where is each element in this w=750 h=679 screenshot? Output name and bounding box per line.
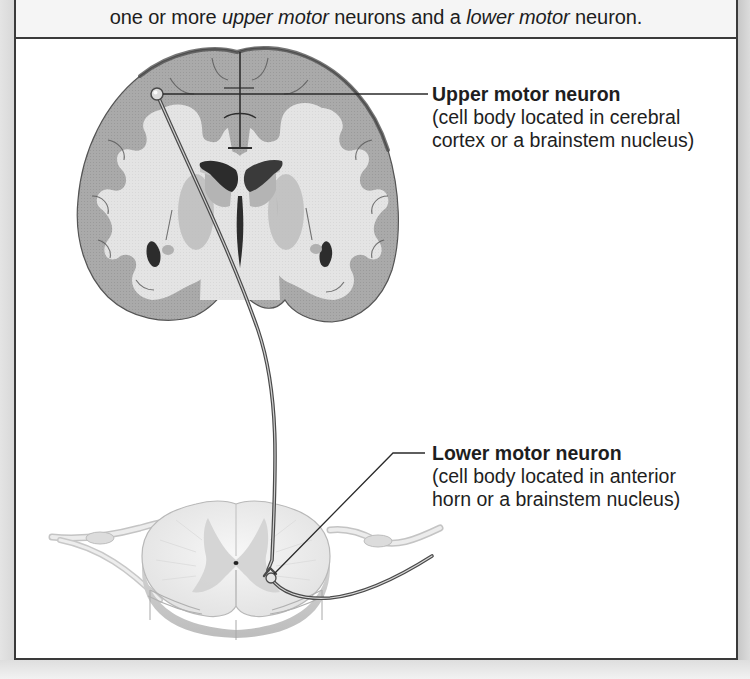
label-upper-desc-1: (cell body located in cerebral xyxy=(432,106,694,129)
lower-motor-cell-body xyxy=(266,573,276,583)
label-upper-desc-2: cortex or a brainstem nucleus) xyxy=(432,129,694,152)
label-lower-title: Lower motor neuron xyxy=(432,442,680,465)
label-upper-title: Upper motor neuron xyxy=(432,83,694,106)
label-upper-motor-neuron: Upper motor neuron (cell body located in… xyxy=(432,83,694,152)
upper-motor-cell-body xyxy=(151,88,163,100)
central-canal xyxy=(234,561,239,565)
label-lower-desc-2: horn or a brainstem nucleus) xyxy=(432,488,680,511)
spinal-cord-cross-section xyxy=(52,501,440,640)
label-lower-motor-neuron: Lower motor neuron (cell body located in… xyxy=(432,442,680,511)
label-lower-desc-1: (cell body located in anterior xyxy=(432,465,680,488)
